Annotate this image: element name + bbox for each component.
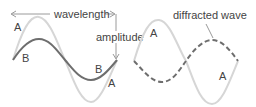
diffracted-wave-label: diffracted wave	[173, 9, 247, 21]
label-a-bottom-left: A	[108, 77, 116, 89]
wave-diagram: wavelength amplitude A B B A diffracted …	[0, 0, 256, 107]
diffracted-leader-line	[206, 24, 213, 38]
label-b-right: B	[95, 63, 102, 75]
label-a-top-left: A	[14, 21, 22, 33]
amplitude-label: amplitude	[96, 31, 144, 43]
label-a-top-right: A	[150, 27, 158, 39]
label-b-left: B	[22, 52, 29, 64]
label-a-bottom-right: A	[219, 70, 227, 82]
wavelength-label: wavelength	[53, 8, 110, 20]
